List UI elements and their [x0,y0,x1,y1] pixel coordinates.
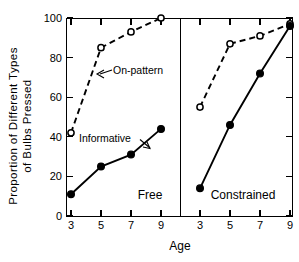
point-free-informative-5 [98,163,105,170]
point-free-on-pattern-7 [128,29,134,35]
chart-plot-area: Proportion of Different Types of Bulbs P… [0,0,299,262]
x-tick-labels: 3 5 7 9 3 5 7 9 [68,219,293,231]
line-constrained-on-pattern [200,24,290,107]
point-free-on-pattern-3 [68,130,74,136]
point-free-on-pattern-5 [98,45,104,51]
panel-label-constrained: Constrained [211,188,276,202]
point-free-informative-9 [158,125,165,132]
y-axis-title: Proportion of Different Types of Bulbs P… [7,47,33,205]
x-tick-label-constrained-7: 7 [257,219,263,231]
x-tick-label-free-3: 3 [68,219,74,231]
x-tick-label-constrained-3: 3 [197,219,203,231]
point-constrained-informative-7 [257,70,264,77]
y-tick-label-20: 20 [50,170,62,182]
y-tick-label-60: 60 [50,91,62,103]
x-tick-label-free-9: 9 [158,219,164,231]
annotation-informative: Informative [79,132,150,149]
y-ticks [67,18,74,216]
annotation-on-pattern: On-pattern [97,64,163,79]
point-constrained-informative-5 [227,122,234,129]
y-tick-label-40: 40 [50,131,62,143]
point-free-on-pattern-9 [158,15,164,21]
on-pattern-leader-line [100,70,112,74]
x-tick-label-free-7: 7 [128,219,134,231]
point-constrained-informative-3 [197,185,204,192]
y-tick-labels: 100 80 60 40 20 0 [44,12,62,222]
y-tick-label-80: 80 [50,52,62,64]
annotation-label-on-pattern: On-pattern [113,64,163,76]
point-free-informative-7 [128,151,135,158]
point-free-informative-3 [68,191,75,198]
x-tick-label-constrained-5: 5 [227,219,233,231]
y-axis-title-line1: Proportion of Different Types [7,47,19,205]
point-constrained-on-pattern-7 [257,33,263,39]
point-constrained-informative-9 [287,23,294,30]
figure-container: Proportion of Different Types of Bulbs P… [0,0,299,262]
x-tick-label-free-5: 5 [98,219,104,231]
y-ticks-right [286,18,293,216]
y-tick-label-100: 100 [44,12,62,24]
y-axis-title-line2: of Bulbs Pressed [21,79,33,172]
panel-label-free: Free [138,188,163,202]
x-axis-title: Age [169,239,191,253]
annotation-label-informative: Informative [79,132,131,144]
series-constrained-on-pattern [197,21,293,110]
line-constrained-informative [200,26,290,188]
point-constrained-on-pattern-3 [197,104,203,110]
x-tick-label-constrained-9: 9 [287,219,293,231]
y-tick-label-0: 0 [56,210,62,222]
series-constrained-informative [197,23,294,192]
point-constrained-on-pattern-5 [227,41,233,47]
